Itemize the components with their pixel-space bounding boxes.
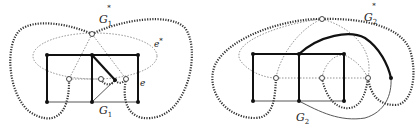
primal-edge bbox=[92, 55, 115, 80]
dual-edge-thin bbox=[239, 19, 322, 78]
right-diagram bbox=[212, 17, 413, 119]
label-g1: G1 bbox=[99, 105, 112, 119]
dual-outer-loop bbox=[212, 19, 322, 118]
label-g2-star: G2* bbox=[364, 11, 376, 26]
duality-diagram bbox=[0, 0, 417, 130]
dual-outer-loop bbox=[10, 23, 92, 118]
dual-edge-thin bbox=[322, 19, 369, 78]
label-g2: G2 bbox=[296, 112, 309, 126]
label-g1-star: G1* bbox=[99, 13, 111, 28]
primal-edge-thin bbox=[92, 80, 115, 102]
label-e: e bbox=[140, 79, 145, 88]
primal-edge-thin bbox=[299, 78, 391, 119]
label-e-star: e* bbox=[154, 38, 163, 49]
dual-vertices bbox=[67, 32, 129, 82]
dual-outer-loop-right bbox=[322, 19, 414, 105]
dual-edge-thin bbox=[69, 34, 92, 79]
